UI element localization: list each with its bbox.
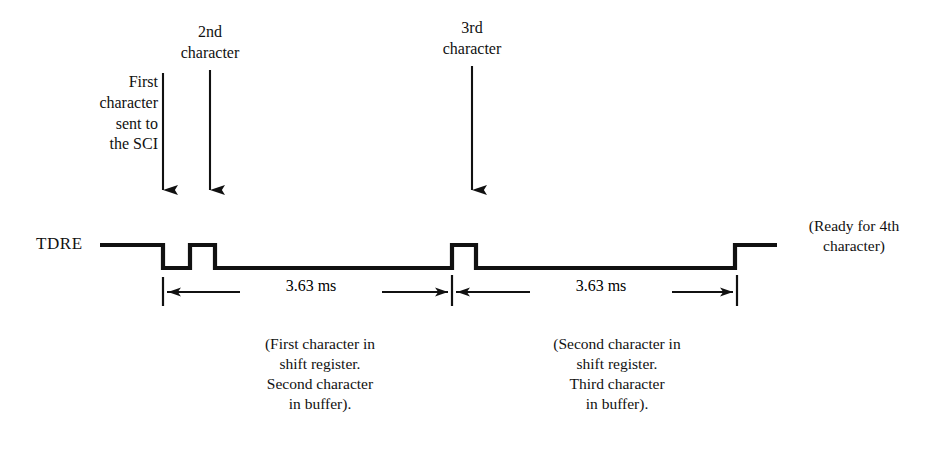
signal-label-tdre: TDRE (36, 233, 83, 255)
annotation-third-character: 3rd character (412, 18, 532, 60)
tdre-waveform (100, 245, 777, 268)
dimension-label-1: 3.63 ms (240, 277, 382, 295)
annotation-second-character: 2nd character (150, 22, 270, 64)
caption-second-interval: (Second character in shift register. Thi… (482, 334, 752, 415)
annotation-first-character: First character sent to the SCI (63, 72, 158, 155)
caption-first-interval: (First character in shift register. Seco… (185, 334, 455, 415)
annotation-ready-for-fourth-character: (Ready for 4th character) (781, 216, 927, 256)
timing-diagram-canvas: First character sent to the SCI 2nd char… (0, 0, 932, 456)
dimension-label-2: 3.63 ms (530, 277, 672, 295)
